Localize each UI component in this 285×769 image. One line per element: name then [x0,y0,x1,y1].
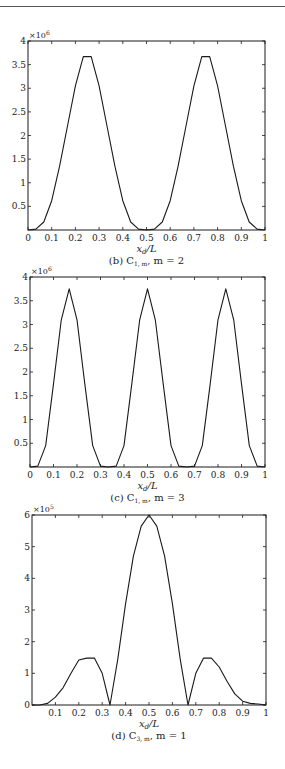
x-tick-label: 0.4 [118,708,133,718]
x-tick-label: 0.8 [212,708,227,718]
x-tick-label: 1 [263,708,269,718]
figure-caption: (d) C3, m, m = 1 [111,730,186,742]
chart-d: 0.10.20.30.40.50.60.70.80.910123456×105x… [0,0,285,769]
x-tick-label: 0.5 [142,708,157,718]
x-tick-label: 0.7 [189,708,204,718]
y-tick-label: 0 [24,700,30,710]
y-tick-label: 6 [24,510,30,520]
x-tick-label: 0.3 [95,708,110,718]
y-tick-label: 2 [24,637,30,647]
data-series-line [32,515,266,705]
y-tick-label: 4 [24,573,30,583]
plot-frame [32,515,266,705]
x-tick-label: 0.1 [48,708,62,718]
y-axis-multiplier: ×105 [33,503,54,514]
x-tick-label: 0.9 [235,708,250,718]
x-tick-label: 0.2 [72,708,86,718]
x-tick-label: 0.6 [165,708,180,718]
y-tick-label: 1 [24,668,30,678]
y-tick-label: 3 [24,605,30,615]
y-tick-label: 5 [24,542,30,552]
